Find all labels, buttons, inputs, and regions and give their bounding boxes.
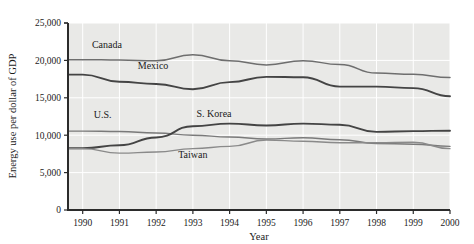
y-axis-title: Energy use per dollar of GDP [7, 53, 18, 178]
y-tick-label: 25,000 [35, 18, 61, 28]
energy-use-line-chart: 05,00010,00015,00020,00025,0001990199119… [0, 0, 474, 244]
series-label-taiwan: Taiwan [178, 149, 207, 160]
x-tick-label: 1994 [220, 218, 239, 228]
series-label-canada: Canada [92, 39, 123, 50]
x-tick-label: 1992 [147, 218, 166, 228]
chart-canvas: 05,00010,00015,00020,00025,0001990199119… [0, 0, 474, 244]
x-tick-label: 1996 [294, 218, 313, 228]
y-tick-label: 15,000 [35, 93, 61, 103]
y-tick-label: 0 [56, 205, 61, 215]
x-tick-label: 1997 [330, 218, 349, 228]
x-tick-label: 1999 [404, 218, 423, 228]
x-tick-label: 1990 [73, 218, 92, 228]
x-tick-label: 1998 [367, 218, 386, 228]
series-label-s-korea: S. Korea [197, 108, 233, 119]
series-label-u-s: U.S. [94, 109, 112, 120]
series-label-mexico: Mexico [138, 60, 169, 71]
x-tick-label: 1991 [110, 218, 129, 228]
x-tick-label: 1993 [183, 218, 202, 228]
x-tick-label: 2000 [441, 218, 460, 228]
y-tick-label: 5,000 [40, 168, 62, 178]
x-tick-label: 1995 [257, 218, 276, 228]
x-axis-title: Year [249, 231, 269, 242]
plot-area-background [68, 23, 450, 210]
y-tick-label: 20,000 [35, 56, 61, 66]
y-tick-label: 10,000 [35, 131, 61, 141]
